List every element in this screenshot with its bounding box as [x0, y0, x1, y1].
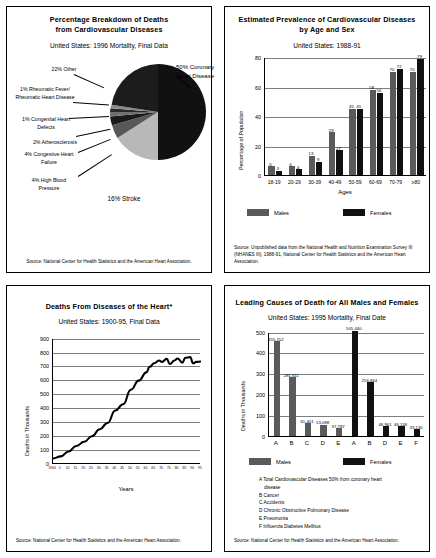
- ytick-800: 800: [28, 350, 49, 356]
- bar-Males-E: [336, 428, 342, 436]
- bar-Males-C: [305, 423, 311, 436]
- causes-key-line-1: disease: [259, 484, 382, 492]
- bar-value-50-59-Females: 45: [351, 104, 367, 109]
- heart-deaths-source: Source: National Center for Health Stati…: [16, 537, 202, 544]
- pie-source: Source: National Center for Health Stati…: [16, 258, 202, 265]
- bar-value-40-49-Males: 29: [323, 128, 339, 133]
- legend-swatch-males: [247, 209, 269, 216]
- prevalence-chart: 020406080Percentage of Population6318-19…: [234, 50, 420, 220]
- bar-50-59-Males: [349, 109, 355, 175]
- pie-subtitle: United States: 1996 Mortality, Final Dat…: [16, 41, 202, 50]
- heart-deaths-title: Deaths From Diseases of the Heart*: [16, 302, 202, 312]
- ytick-200: 200: [246, 392, 265, 398]
- bar-≥80-Females: [417, 59, 423, 176]
- bar-70-79-Females: [397, 69, 403, 175]
- ytick-40: 40: [244, 114, 261, 120]
- ytick-700: 700: [28, 363, 49, 369]
- bar-value-Males-A: 455,152: [266, 337, 286, 342]
- xtick-Females-B: B: [362, 440, 378, 446]
- legend-label-males: Males: [274, 210, 289, 216]
- bar-value-Females-F: 33,130: [406, 425, 426, 430]
- bar-value-30-39-Males: 13: [303, 151, 319, 156]
- ytick-400: 400: [246, 350, 265, 356]
- leading-causes-chart: 0100200300400500Deaths in Thousands455,1…: [234, 323, 420, 471]
- pie-title-line2: from Cardiovascular Diseases: [16, 25, 202, 35]
- pie-label-atherosclerosis: 2% Atherosclerosis: [11, 139, 77, 147]
- causes-legend-males: Males: [249, 458, 291, 465]
- leader-hbp: [78, 154, 112, 176]
- heart-plot-area: [52, 339, 200, 464]
- prevalence-x-axis-label: Ages: [264, 189, 426, 195]
- bar-value-20-29-Females: 4: [290, 165, 306, 170]
- ytick-300: 300: [246, 371, 265, 377]
- pie-chart: 22% Other 1% Rheumatic Fever/ Rheumatic …: [16, 54, 202, 204]
- panel-pie: Percentage Breakdown of Deaths from Card…: [0, 0, 218, 279]
- xtick-Males-D: D: [315, 440, 331, 446]
- causes-legend-females: Females: [343, 458, 391, 465]
- heart-deaths-subtitle: United States: 1900-95, Final Data: [16, 317, 202, 326]
- bar-40-49-Females: [336, 150, 342, 175]
- legend-label-males: Males: [276, 459, 291, 465]
- gridline-80: [265, 58, 426, 59]
- causes-key-line-4: D Chronic Obstructive Pulmonary Disease: [259, 507, 382, 515]
- gridline-400: [269, 353, 424, 354]
- bar-20-29-Females: [296, 169, 302, 175]
- causes-key-line-6: F Influenza Diabetes Mellitus: [259, 523, 382, 531]
- xtick-≥80: ≥80: [402, 179, 430, 185]
- bar-value-Females-A: 505,440: [344, 326, 364, 331]
- bar-value-30-39-Females: 9: [310, 157, 326, 162]
- leading-causes-source: Source: National Center for Health Stati…: [234, 537, 420, 544]
- bar-70-79-Males: [390, 72, 396, 175]
- leader-athero: [76, 129, 110, 137]
- xtick-95: 95: [192, 466, 208, 470]
- ytick-100: 100: [28, 447, 49, 453]
- leading-causes-subtitle: United States: 1995 Mortality, Final Dat…: [234, 313, 420, 322]
- leader-rheumatic: [73, 102, 109, 105]
- bar-value-18-19-Females: 3: [270, 166, 286, 171]
- bar-Females-B: [367, 382, 373, 435]
- prevalence-title-line1: Estimated Prevalence of Cardiovascular D…: [234, 15, 420, 25]
- pie-label-rheumatic: 1% Rheumatic Fever/ Rheumatic Heart Dise…: [14, 86, 76, 102]
- causes-key-list: A Total Cardiovascular Diseases 50% from…: [259, 476, 382, 530]
- ytick-500: 500: [246, 330, 265, 336]
- bar-30-39-Females: [316, 162, 322, 175]
- pie-label-chf: 4% Congestive Heart Failure: [20, 151, 78, 167]
- gridline-500: [269, 333, 424, 334]
- leader-other: [74, 74, 104, 88]
- ytick-20: 20: [244, 144, 261, 150]
- bar-value-Females-B: 256,844: [359, 378, 379, 383]
- bar-Females-D: [383, 426, 389, 436]
- xtick-Females-E: E: [393, 440, 409, 446]
- xtick-Females-F: F: [408, 440, 424, 446]
- bar-value-≥80-Females: 79: [411, 54, 427, 59]
- bar-Males-D: [320, 425, 326, 436]
- bar-50-59-Females: [357, 109, 363, 175]
- pie-label-other: 22% Other: [38, 66, 90, 74]
- legend-swatch-females: [343, 209, 365, 216]
- pie-label-stroke: 16% Stroke: [94, 194, 154, 204]
- ytick-0: 0: [246, 434, 265, 440]
- ytick-300: 300: [28, 419, 49, 425]
- bar-value-≥80-Males: 70: [404, 67, 420, 72]
- bar-40-49-Males: [329, 132, 335, 175]
- bar-value-40-49-Females: 17: [330, 146, 346, 151]
- prevalence-legend-males: Males: [247, 209, 289, 216]
- causes-key-line-2: B Cancer: [259, 492, 382, 500]
- ytick-80: 80: [244, 55, 261, 61]
- bar-Males-A: [274, 341, 280, 436]
- legend-swatch-males: [249, 458, 271, 465]
- heart-y-axis-label: Deaths in Thousands: [24, 406, 30, 456]
- bar-60-69-Males: [370, 90, 376, 176]
- bar-≥80-Males: [410, 72, 416, 175]
- pie-title-line1: Percentage Breakdown of Deaths: [16, 15, 202, 25]
- legend-label-females: Females: [370, 459, 391, 465]
- xtick-Males-C: C: [299, 440, 315, 446]
- ytick-60: 60: [244, 85, 261, 91]
- prevalence-y-axis-label: Percentage of Population: [238, 111, 244, 171]
- heart-deaths-chart: 0100200300400500600700800900Deaths in Th…: [16, 333, 202, 518]
- ytick-600: 600: [28, 377, 49, 383]
- ytick-500: 500: [28, 391, 49, 397]
- ytick-0: 0: [244, 173, 261, 179]
- leader-congenital: [69, 116, 109, 119]
- heart-x-axis-label: Years: [52, 486, 200, 492]
